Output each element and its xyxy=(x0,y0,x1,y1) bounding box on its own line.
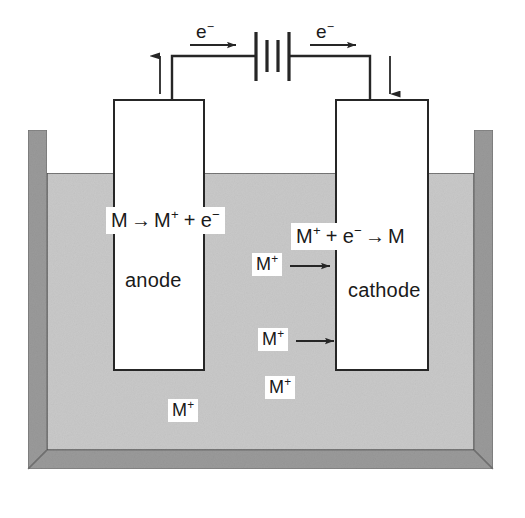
ion-label-2: M+ xyxy=(258,328,288,351)
cathode-label: cathode xyxy=(345,278,424,302)
cathode-wire xyxy=(288,56,370,100)
electrolytic-cell-diagram: e− e− M→M++e− anode M++e−→M cathode M+ M… xyxy=(0,0,525,518)
battery-symbol xyxy=(256,32,289,81)
anode-electrode xyxy=(114,100,204,370)
right-electron-label: e− xyxy=(313,21,337,42)
ion-label-4: M+ xyxy=(168,399,198,422)
ion-label-3: M+ xyxy=(265,376,295,399)
anode-equation: M→M++e− xyxy=(106,207,225,234)
anode-wire xyxy=(172,56,256,100)
cathode-equation: M++e−→M xyxy=(291,223,410,250)
beaker-bottom-wall xyxy=(28,450,493,469)
beaker-right-wall xyxy=(474,130,493,469)
ion-label-1: M+ xyxy=(252,253,282,276)
external-circuit xyxy=(160,32,390,100)
anode-label: anode xyxy=(122,268,185,292)
beaker-left-wall xyxy=(28,130,47,469)
left-electron-label: e− xyxy=(193,21,217,42)
